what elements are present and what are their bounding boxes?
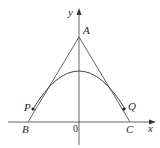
point-Q-marker	[122, 107, 125, 110]
y-axis-label: y	[67, 6, 73, 18]
point-C-label: C	[126, 123, 134, 135]
parabola-tangent-diagram: y x 0 A B C P Q	[0, 0, 160, 148]
origin-label: 0	[73, 123, 78, 134]
point-Q-label: Q	[128, 100, 136, 112]
diagram-canvas: y x 0 A B C P Q	[0, 0, 160, 148]
tangent-line-AC	[79, 37, 130, 122]
tangent-line-AB	[28, 37, 79, 122]
x-axis-label: x	[147, 122, 153, 134]
y-axis-arrow-icon	[77, 8, 82, 15]
point-B-label: B	[22, 123, 29, 135]
point-P-label: P	[23, 101, 31, 113]
point-P-marker	[31, 107, 34, 110]
point-A-label: A	[82, 24, 90, 36]
